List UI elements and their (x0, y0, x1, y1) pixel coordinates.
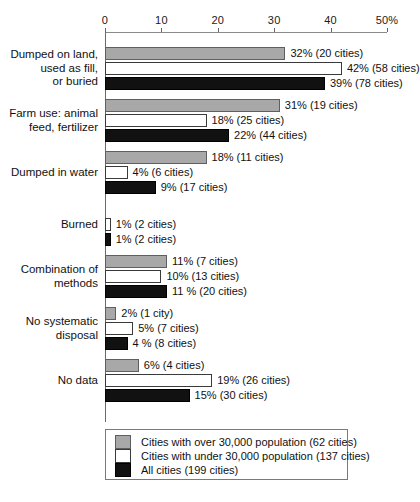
bar-over30k[interactable] (105, 151, 207, 164)
bar-value-label: 15% (30 cities) (195, 388, 268, 402)
bar-value-label: 19% (26 cities) (217, 373, 290, 387)
bar-group: No systematic disposal2% (1 city)5% (7 c… (0, 307, 401, 350)
bar-value-label: 4% (6 cities) (133, 165, 194, 179)
bar-value-label: 32% (20 cities) (290, 46, 363, 60)
bar-row: 22% (44 cities) (0, 129, 401, 142)
bar-value-label: 2% (1 city) (121, 306, 173, 320)
bar-group: No data6% (4 cities)19% (26 cities)15% (… (0, 359, 401, 402)
bar-row: 15% (30 cities) (0, 389, 401, 402)
x-axis-tick-mark (387, 28, 388, 32)
bar-over30k[interactable] (105, 99, 280, 112)
bar-group: Dumped on land, used as fill, or buried3… (0, 47, 401, 90)
bar-under30k[interactable] (105, 322, 133, 335)
bar-all[interactable] (105, 129, 229, 142)
bar-all[interactable] (105, 181, 156, 194)
bar-over30k[interactable] (105, 255, 167, 268)
legend-item[interactable]: All cities (199 cities) (115, 463, 238, 477)
bar-group: Farm use: animal feed, fertilizer31% (19… (0, 99, 401, 142)
bar-row: 31% (19 cities) (0, 99, 401, 112)
x-axis-tick-mark (161, 28, 162, 32)
bar-all[interactable] (105, 285, 167, 298)
bar-row: 10% (13 cities) (0, 270, 401, 283)
x-axis-tick-label: 10 (155, 14, 168, 26)
bar-value-label: 9% (17 cities) (161, 180, 228, 194)
bar-over30k[interactable] (105, 359, 139, 372)
bar-row: 39% (78 cities) (0, 77, 401, 90)
bar-all[interactable] (105, 389, 190, 402)
legend-swatch-gray (115, 435, 131, 449)
plot-area: Dumped on land, used as fill, or buried3… (0, 33, 401, 423)
bar-value-label: 4 % (8 cities) (133, 336, 197, 350)
bar-all[interactable] (105, 337, 128, 350)
bar-all[interactable] (105, 233, 111, 246)
bar-under30k[interactable] (105, 374, 212, 387)
bar-row: 32% (20 cities) (0, 47, 401, 60)
bar-value-label: 11% (7 cities) (172, 254, 238, 268)
bar-row: 9% (17 cities) (0, 181, 401, 194)
bar-value-label: 31% (19 cities) (285, 98, 358, 112)
bar-under30k[interactable] (105, 270, 161, 283)
bar-value-label: 18% (11 cities) (212, 150, 284, 164)
bar-under30k[interactable] (105, 62, 342, 75)
legend-item[interactable]: Cities with over 30,000 population (62 c… (115, 435, 357, 449)
legend-label: Cities with over 30,000 population (62 c… (141, 436, 357, 449)
bar-row: 2% (1 city) (0, 307, 401, 320)
bar-row: 6% (4 cities) (0, 359, 401, 372)
bar-row: 1% (2 cities) (0, 233, 401, 246)
bar-row (0, 203, 401, 216)
bar-group: Dumped in water18% (11 cities)4% (6 citi… (0, 151, 401, 194)
bar-row: 11% (7 cities) (0, 255, 401, 268)
bar-value-label: 39% (78 cities) (330, 76, 403, 90)
legend-swatch-black (115, 463, 131, 477)
bar-over30k[interactable] (105, 307, 116, 320)
bar-value-label: 5% (7 cities) (138, 321, 199, 335)
legend-swatch-white (115, 449, 131, 463)
chart-legend: Cities with over 30,000 population (62 c… (105, 429, 348, 480)
x-axis-tick-label: 30 (268, 14, 281, 26)
bar-row: 5% (7 cities) (0, 322, 401, 335)
bar-row: 19% (26 cities) (0, 374, 401, 387)
bar-over30k[interactable] (105, 47, 285, 60)
bar-value-label: 1% (2 cities) (116, 232, 177, 246)
bar-group: Combination of methods11% (7 cities)10% … (0, 255, 401, 298)
bar-value-label: 10% (13 cities) (166, 269, 239, 283)
bar-group: Burned1% (2 cities)1% (2 cities) (0, 203, 401, 246)
x-axis-tick-mark (274, 28, 275, 32)
bar-row: 4 % (8 cities) (0, 337, 401, 350)
bar-value-label: 1% (2 cities) (116, 217, 177, 231)
bar-value-label: 6% (4 cities) (144, 358, 205, 372)
x-axis-tick-label: 20 (211, 14, 224, 26)
x-axis-tick-mark (331, 28, 332, 32)
bar-row: 11 % (20 cities) (0, 285, 401, 298)
x-axis-tick-label: 50% (376, 14, 399, 26)
bar-all[interactable] (105, 77, 325, 90)
bar-value-label: 18% (25 cities) (212, 113, 285, 127)
bar-value-label: 22% (44 cities) (234, 128, 307, 142)
bar-row: 42% (58 cities) (0, 62, 401, 75)
bar-row: 18% (25 cities) (0, 114, 401, 127)
legend-label: Cities with under 30,000 population (137… (141, 450, 370, 463)
bar-under30k[interactable] (105, 114, 207, 127)
legend-label: All cities (199 cities) (141, 464, 238, 477)
bar-row: 18% (11 cities) (0, 151, 401, 164)
legend-item[interactable]: Cities with under 30,000 population (137… (115, 449, 370, 463)
x-axis-tick-mark (218, 28, 219, 32)
bar-under30k[interactable] (105, 218, 111, 231)
bar-under30k[interactable] (105, 166, 128, 179)
x-axis-tick-label: 0 (102, 14, 108, 26)
bar-value-label: 11 % (20 cities) (172, 284, 247, 298)
bar-row: 1% (2 cities) (0, 218, 401, 231)
bar-value-label: 42% (58 cities) (347, 61, 420, 75)
bar-row: 4% (6 cities) (0, 166, 401, 179)
x-axis-tick-label: 40 (324, 14, 337, 26)
